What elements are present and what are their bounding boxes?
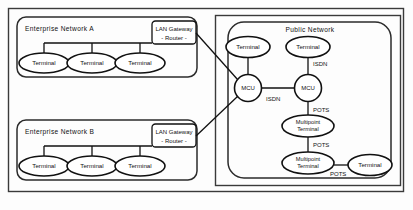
multipoint-terminal-upper-label-line2: Terminal: [297, 126, 319, 132]
group-enterprise-network-b: Enterprise Network B Terminal Terminal T…: [17, 120, 197, 180]
diagram-canvas: Enterprise Network A Terminal Terminal T…: [0, 0, 413, 210]
link-router-b-to-mcu-left: [196, 96, 238, 136]
enterprise-a-lan-gateway-router[interactable]: [152, 21, 196, 44]
enterprise-b-terminal-1-label: Terminal: [32, 162, 55, 169]
mcu-right-label: MCU: [301, 85, 315, 91]
enterprise-b-lan-gateway-router[interactable]: [152, 124, 196, 147]
multipoint-terminal-lower-label-line2: Terminal: [297, 163, 319, 169]
enterprise-a-gateway-label-line1: LAN Gateway: [155, 26, 192, 32]
public-terminal-bottom-label: Terminal: [358, 161, 381, 168]
public-terminal-left-label: Terminal: [236, 43, 259, 50]
enterprise-a-terminal-2-label: Terminal: [80, 59, 103, 66]
public-network-title: Public Network: [286, 26, 335, 33]
enterprise-b-terminal-3-label: Terminal: [128, 162, 151, 169]
multipoint-terminal-upper-label-line1: Multipoint: [296, 119, 321, 125]
enterprise-b-terminal-2-label: Terminal: [80, 162, 103, 169]
network-diagram: Enterprise Network A Terminal Terminal T…: [0, 0, 413, 210]
group-public-network: Public Network Terminal Terminal MCU MCU: [196, 22, 392, 178]
enterprise-a-terminal-1-label: Terminal: [32, 59, 55, 66]
enterprise-b-gateway-label-line2: - Router -: [161, 138, 186, 144]
group-enterprise-network-a: Enterprise Network A Terminal Terminal T…: [17, 17, 197, 77]
label-isdn-mcu-to-mcu: ISDN: [266, 96, 280, 102]
label-pots-multipoint-chain: POTS: [313, 142, 329, 148]
label-isdn-terminal-right: ISDN: [313, 61, 327, 67]
multipoint-terminal-lower-label-line1: Multipoint: [296, 156, 321, 162]
enterprise-a-title: Enterprise Network A: [25, 25, 94, 33]
label-pots-terminal-bottom: POTS: [330, 171, 346, 177]
enterprise-a-terminal-3-label: Terminal: [128, 59, 151, 66]
public-terminal-right-label: Terminal: [296, 43, 319, 50]
enterprise-b-title: Enterprise Network B: [25, 128, 95, 136]
enterprise-b-gateway-label-line1: LAN Gateway: [155, 129, 192, 135]
mcu-left-label: MCU: [241, 85, 255, 91]
enterprise-a-gateway-label-line2: - Router -: [161, 35, 186, 41]
label-pots-mcu-right: POTS: [313, 107, 329, 113]
